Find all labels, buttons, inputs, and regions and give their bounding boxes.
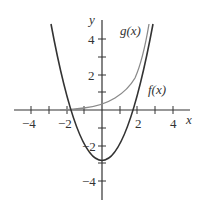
y-tick-label: 4 bbox=[88, 32, 95, 47]
x-tick-label: −4 bbox=[22, 116, 36, 131]
x-tick-label: 2 bbox=[135, 116, 142, 131]
x-axis-label: x bbox=[185, 112, 192, 127]
y-axis-label: y bbox=[87, 12, 95, 27]
function-graph: y x g(x) f(x) −4 −2 2 4 4 2 −2 −4 bbox=[0, 0, 203, 208]
f-label: f(x) bbox=[148, 82, 166, 97]
y-tick-label: −2 bbox=[82, 139, 96, 154]
x-tick-label: 4 bbox=[170, 116, 177, 131]
y-tick-label: 2 bbox=[88, 68, 95, 83]
y-tick-label: −4 bbox=[82, 174, 96, 189]
x-tick-label: −2 bbox=[58, 116, 72, 131]
g-label: g(x) bbox=[120, 23, 141, 38]
